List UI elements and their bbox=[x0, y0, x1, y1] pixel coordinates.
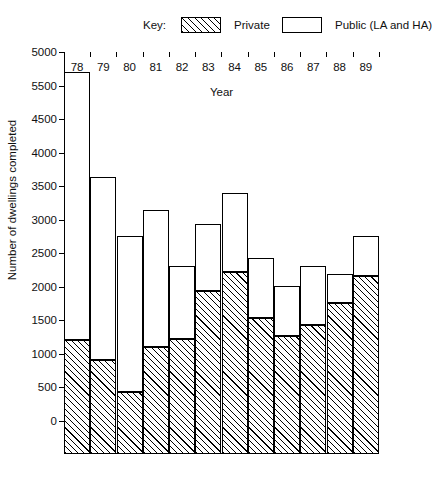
y-axis-tick-label: 1000 bbox=[31, 348, 57, 360]
bar-segment-public bbox=[117, 236, 143, 392]
legend-key-label: Key: bbox=[143, 14, 166, 36]
bar-87 bbox=[300, 266, 326, 454]
x-axis-tick bbox=[353, 52, 354, 57]
bar-86 bbox=[274, 286, 300, 454]
bar-segment-private bbox=[195, 291, 221, 454]
y-axis-tick-label: 4500 bbox=[31, 113, 57, 125]
bar-segment-public bbox=[143, 210, 169, 347]
bar-segment-public bbox=[169, 266, 195, 339]
y-axis-tick-label: 0 bbox=[51, 415, 57, 427]
y-axis-tick-label: 4000 bbox=[31, 147, 57, 159]
legend-public-label: Public (LA and HA) bbox=[335, 19, 432, 31]
legend-private-label: Private bbox=[234, 19, 270, 31]
x-axis-tick bbox=[221, 52, 222, 57]
bar-segment-public bbox=[327, 274, 353, 303]
bar-80 bbox=[117, 236, 143, 454]
x-axis-tick bbox=[379, 52, 380, 57]
x-axis-tick-label: 86 bbox=[281, 61, 294, 73]
x-axis-tick bbox=[143, 52, 144, 57]
y-axis-tick-label: 5500 bbox=[31, 80, 57, 92]
bar-79 bbox=[90, 177, 116, 454]
x-axis-tick-label: 81 bbox=[149, 61, 162, 73]
x-axis-tick bbox=[90, 52, 91, 57]
x-axis-tick bbox=[169, 52, 170, 57]
bar-segment-private bbox=[353, 276, 379, 454]
private-swatch-icon bbox=[181, 17, 221, 33]
bar-segment-private bbox=[248, 318, 274, 454]
y-axis-tick-label: 5000 bbox=[31, 46, 57, 58]
bar-segment-public bbox=[353, 236, 379, 276]
bar-segment-private bbox=[117, 392, 143, 454]
bar-segment-public bbox=[90, 177, 116, 361]
x-axis-tick bbox=[116, 52, 117, 57]
x-axis-tick-label: 84 bbox=[228, 61, 241, 73]
x-axis-tick bbox=[326, 52, 327, 57]
bar-segment-private bbox=[90, 360, 116, 454]
public-swatch-icon bbox=[282, 17, 322, 33]
x-axis-tick-label: 89 bbox=[359, 61, 372, 73]
y-axis-tick bbox=[59, 52, 64, 53]
plot-area: 5000550045004000350030002500200015001000… bbox=[64, 52, 379, 454]
bar-82 bbox=[169, 266, 195, 454]
y-axis-tick-label: 1500 bbox=[31, 314, 57, 326]
x-axis-tick-label: 88 bbox=[333, 61, 346, 73]
bar-segment-private bbox=[300, 325, 326, 454]
bar-segment-public bbox=[222, 193, 248, 272]
x-axis-tick bbox=[248, 52, 249, 57]
x-axis-tick-label: 82 bbox=[176, 61, 189, 73]
bar-segment-private bbox=[327, 303, 353, 454]
x-axis-tick-label: 79 bbox=[97, 61, 110, 73]
x-axis-tick-label: 80 bbox=[123, 61, 136, 73]
y-axis-tick-label: 500 bbox=[38, 381, 57, 393]
bar-segment-public bbox=[300, 266, 326, 326]
x-axis-tick bbox=[300, 52, 301, 57]
y-axis-title: Number of dwellings completed bbox=[6, 120, 18, 280]
bar-85 bbox=[248, 258, 274, 454]
y-axis-tick-label: 3000 bbox=[31, 214, 57, 226]
bar-89 bbox=[353, 236, 379, 454]
bar-segment-public bbox=[248, 258, 274, 318]
bar-segment-private bbox=[64, 340, 90, 454]
x-axis-title: Year bbox=[64, 86, 379, 98]
bar-segment-private bbox=[169, 339, 195, 454]
bar-segment-public bbox=[274, 286, 300, 336]
x-axis-tick bbox=[195, 52, 196, 57]
legend-item-private: Private bbox=[181, 14, 270, 36]
bar-segment-private bbox=[222, 272, 248, 454]
bar-segment-public bbox=[195, 224, 221, 290]
bar-83 bbox=[195, 224, 221, 454]
bar-segment-private bbox=[274, 336, 300, 454]
bar-88 bbox=[327, 274, 353, 454]
y-axis-tick-label: 3500 bbox=[31, 180, 57, 192]
bar-segment-private bbox=[143, 347, 169, 454]
bar-segment-public bbox=[64, 72, 90, 340]
bar-81 bbox=[143, 210, 169, 454]
x-axis-tick-label: 85 bbox=[254, 61, 267, 73]
legend-key-text: Key: bbox=[143, 19, 166, 31]
legend-item-public: Public (LA and HA) bbox=[282, 14, 432, 36]
bar-84 bbox=[222, 193, 248, 454]
x-axis-tick-label: 83 bbox=[202, 61, 215, 73]
bar-78 bbox=[64, 72, 90, 454]
chart-legend: Key: Private Public (LA and HA) bbox=[0, 14, 419, 36]
x-axis-tick-label: 87 bbox=[307, 61, 320, 73]
x-axis-tick-label: 78 bbox=[71, 61, 84, 73]
y-axis-tick-label: 2500 bbox=[31, 247, 57, 259]
y-axis-tick-label: 2000 bbox=[31, 281, 57, 293]
x-axis-tick bbox=[274, 52, 275, 57]
